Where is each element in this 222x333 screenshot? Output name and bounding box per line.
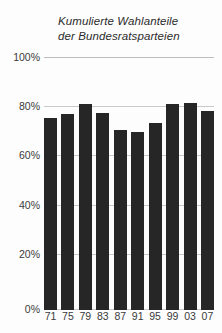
xtick-label-79: 79 xyxy=(79,310,92,322)
xtick-label-75: 75 xyxy=(61,310,74,322)
xtick-label-71: 71 xyxy=(44,310,57,322)
bar-91 xyxy=(131,132,144,310)
bar-95 xyxy=(149,123,162,310)
ytick-label-60: 60% xyxy=(19,149,40,161)
bar-slot xyxy=(184,57,197,310)
bar-slot xyxy=(96,57,109,310)
bar-87 xyxy=(114,130,127,310)
xtick-label-91: 91 xyxy=(131,310,144,322)
ytick-label-80: 80% xyxy=(19,100,40,112)
chart-title: Kumulierte Wahlanteile der Bundesratspar… xyxy=(58,14,218,44)
xtick-label-83: 83 xyxy=(96,310,109,322)
bar-71 xyxy=(44,118,57,310)
bar-slot xyxy=(166,57,179,310)
bar-slot xyxy=(79,57,92,310)
bar-99 xyxy=(166,104,179,310)
bar-83 xyxy=(96,113,109,310)
xtick-label-87: 87 xyxy=(114,310,127,322)
chart-figure: Kumulierte Wahlanteile der Bundesratspar… xyxy=(0,0,222,333)
chart-title-line-2: der Bundesratsparteien xyxy=(58,29,218,44)
ytick-label-100: 100% xyxy=(13,51,40,63)
bar-07 xyxy=(201,111,214,310)
xtick-label-07: 07 xyxy=(201,310,214,322)
bar-slot xyxy=(131,57,144,310)
ytick-label-40: 40% xyxy=(19,199,40,211)
bar-slot xyxy=(149,57,162,310)
bar-slot xyxy=(114,57,127,310)
bar-series xyxy=(44,57,214,310)
bar-slot xyxy=(44,57,57,310)
bar-75 xyxy=(61,114,74,310)
xtick-label-03: 03 xyxy=(184,310,197,322)
bar-slot xyxy=(61,57,74,310)
plot-area: 100% 80% 60% 40% 20% 0% xyxy=(44,50,214,310)
ytick-label-20: 20% xyxy=(19,248,40,260)
chart-title-line-1: Kumulierte Wahlanteile xyxy=(58,14,218,29)
ytick-label-0: 0% xyxy=(25,303,40,315)
bar-03 xyxy=(184,103,197,310)
xtick-label-95: 95 xyxy=(149,310,162,322)
bar-slot xyxy=(201,57,214,310)
x-axis-labels: 71757983879195990307 xyxy=(44,310,214,322)
bar-79 xyxy=(79,104,92,310)
xtick-label-99: 99 xyxy=(166,310,179,322)
